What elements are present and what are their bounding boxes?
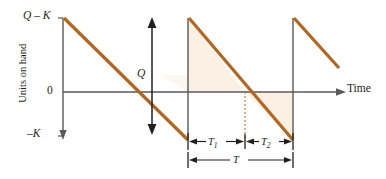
t1-arrowhead-left xyxy=(189,139,197,145)
t2-arrowhead-left xyxy=(246,139,254,145)
y-tick-label-zero: 0 xyxy=(47,85,53,97)
figure-canvas xyxy=(0,0,386,179)
q-arrowhead-top xyxy=(148,17,157,28)
y-axis-arrowhead xyxy=(59,130,66,140)
t1-arrowhead-right xyxy=(236,139,244,145)
annotation-label-t1: T1 xyxy=(208,137,218,150)
q-arrowhead-bottom xyxy=(148,124,157,135)
y-tick-label-negative-k: –K xyxy=(27,128,40,140)
y-axis-label: Units on hand xyxy=(18,30,29,116)
t-arrowhead-left xyxy=(189,157,197,163)
t-arrowhead-right xyxy=(284,157,292,163)
x-axis-arrowhead xyxy=(336,88,346,95)
annotation-label-t2: T2 xyxy=(261,137,271,150)
y-tick-label-q-minus-k: Q – K xyxy=(23,10,50,22)
q-extent-arrow xyxy=(148,17,157,135)
annotation-label-t: T xyxy=(233,155,239,166)
x-axis-label: Time xyxy=(347,83,371,95)
curve-segment-3 xyxy=(294,18,339,68)
annotation-label-t1-subscript: 1 xyxy=(214,141,218,150)
t-cycle-measure-row xyxy=(188,152,293,168)
inventory-sawtooth-figure: Q – K 0 –K Units on hand Time Q T1 T2 T xyxy=(0,0,386,179)
shaded-regions xyxy=(160,18,293,140)
annotation-label-q: Q xyxy=(137,68,145,80)
t1-t2-measure-row xyxy=(188,133,293,150)
shade-tail xyxy=(160,75,188,92)
annotation-label-t2-subscript: 2 xyxy=(267,141,271,150)
annotation-label-t-base: T xyxy=(233,154,239,165)
